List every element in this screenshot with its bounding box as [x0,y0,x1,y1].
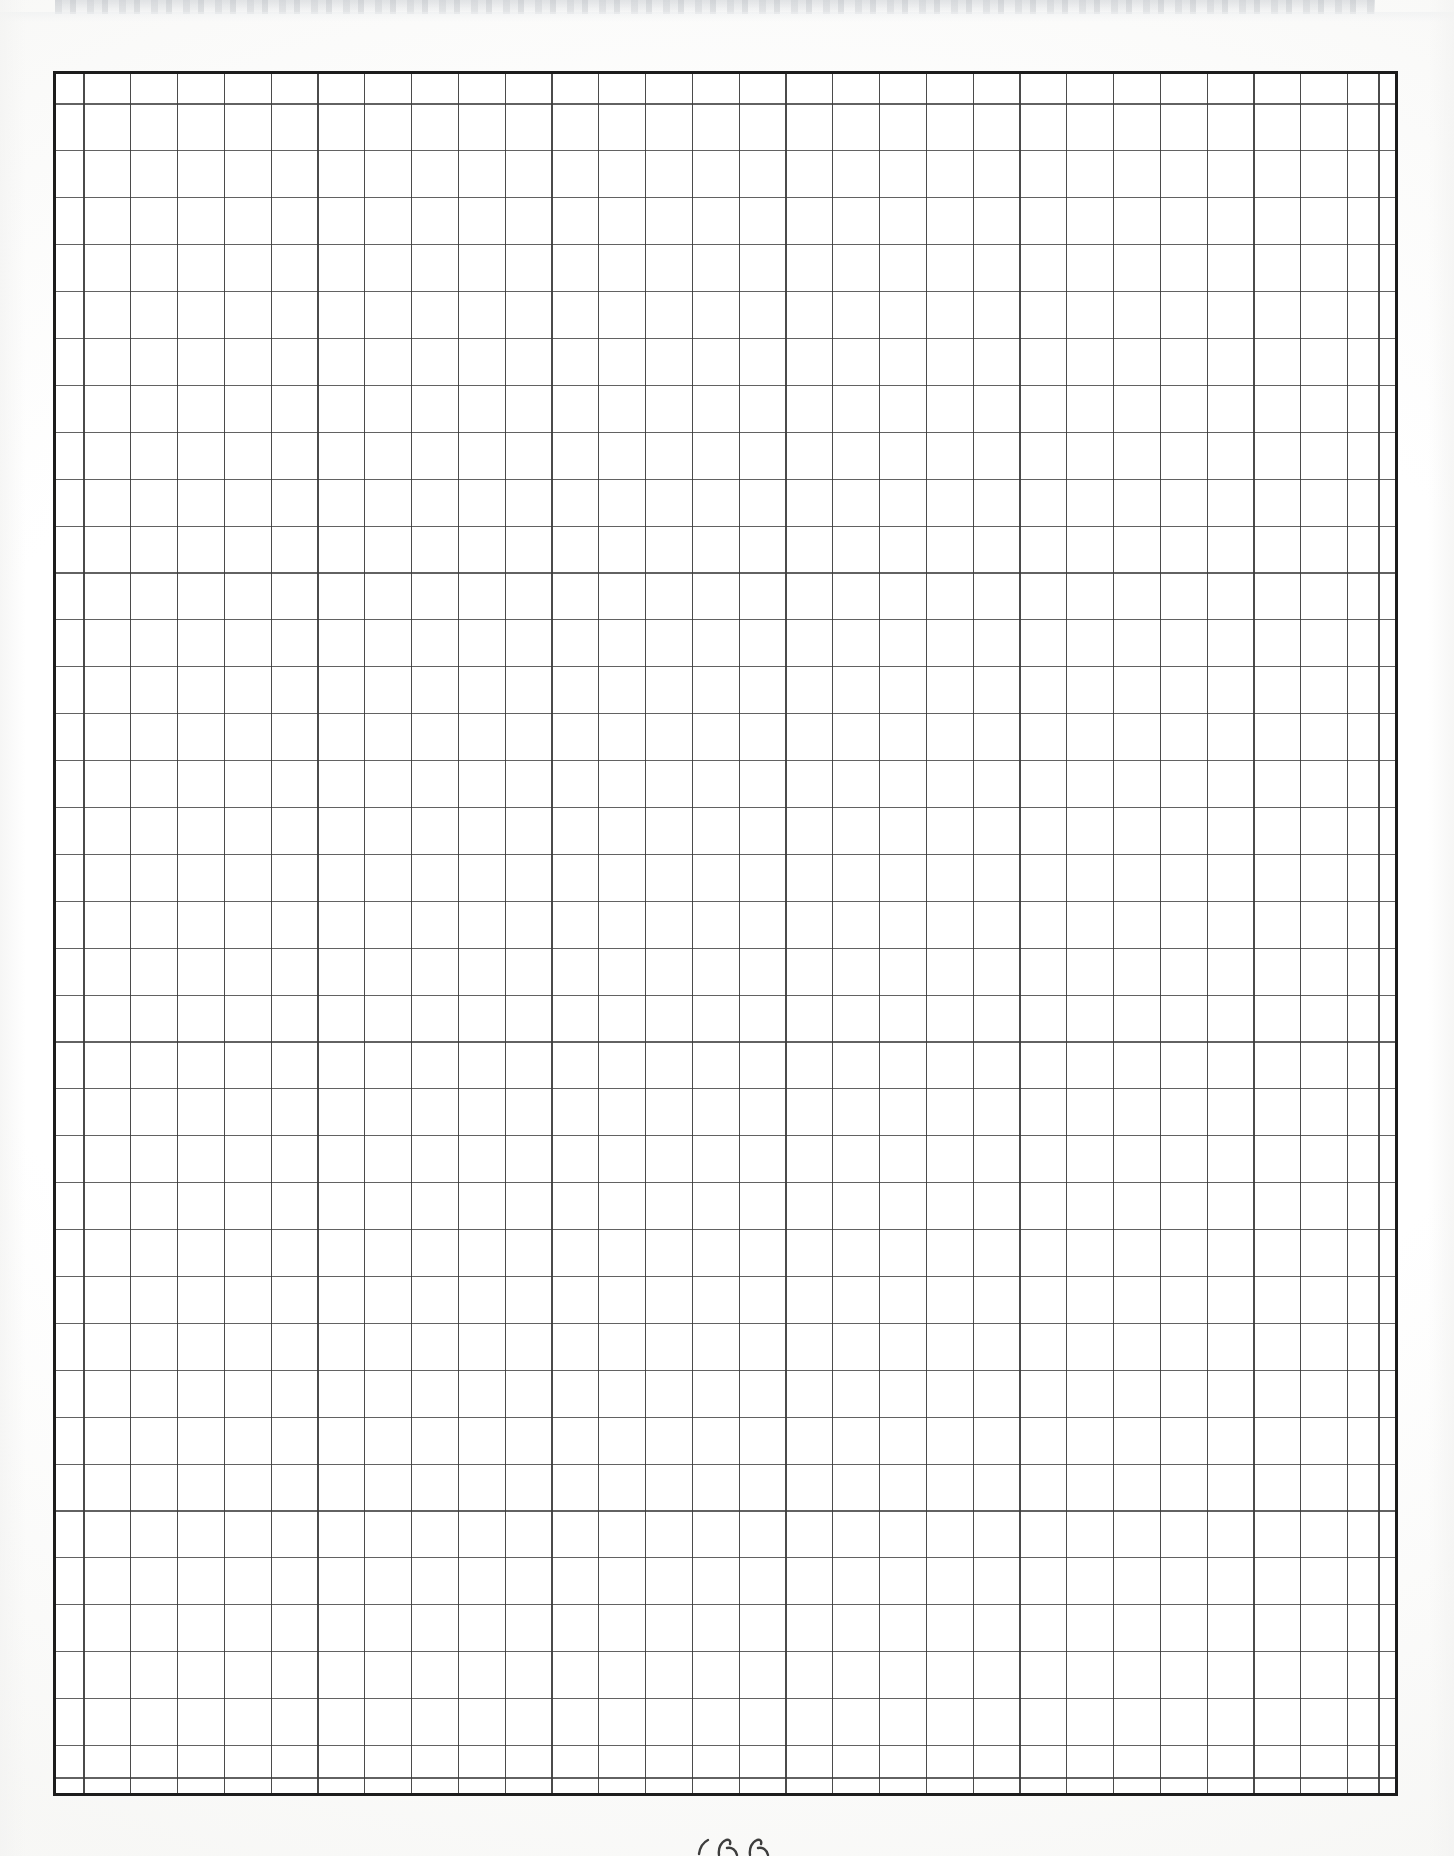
horizontal-rule-lines [56,104,1395,1778]
grid-rules-svg [56,74,1395,1793]
pencil-mark-svg [693,1836,779,1856]
graph-paper-grid [53,71,1398,1796]
scanned-page [0,0,1454,1856]
pencil-mark [693,1836,779,1856]
vertical-rule-lines [84,74,1379,1793]
scanner-edge-band [55,0,1375,14]
page-right-edge-shadow [1428,0,1454,1856]
page-left-edge-shadow [0,0,26,1856]
grid-rule-lines [56,74,1395,1793]
scanner-edge-band-fade [0,12,1454,22]
